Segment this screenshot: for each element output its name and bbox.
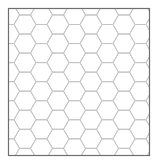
hexagon-cell (146, 129, 156, 148)
hexagon-cell (80, 0, 102, 15)
hexagon-cell (146, 91, 156, 110)
hexagon-cell (31, 158, 53, 162)
hexagon-cell (0, 120, 20, 139)
hexagon-grid (0, 0, 156, 162)
hexagon-cell (146, 34, 156, 53)
hexagon-cell (0, 158, 20, 162)
hexagon-cell (146, 15, 156, 34)
hexagon-cell (64, 158, 86, 162)
hexagon-cell (146, 110, 156, 129)
hexagon-cell (113, 0, 135, 15)
hexagon-cell (14, 0, 36, 15)
hexagon-cell (0, 82, 20, 101)
hexagon-cell (146, 53, 156, 72)
hexagon-cell (97, 158, 119, 162)
hexagon-cell (146, 72, 156, 91)
hex-grid-diagram (0, 0, 156, 162)
hexagon-cell (130, 158, 152, 162)
hexagon-cell (0, 101, 20, 120)
hexagon-cell (146, 0, 156, 15)
hexagon-cell (47, 0, 69, 15)
hexagon-cell (0, 44, 20, 63)
hexagon-cell (0, 25, 20, 44)
hexagon-cell (0, 63, 20, 82)
